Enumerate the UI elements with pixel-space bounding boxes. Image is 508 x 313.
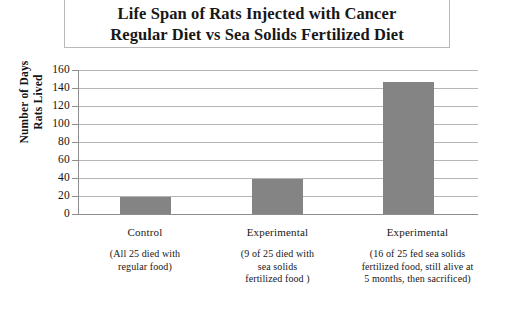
x-category-0-sub-2: regular food) — [70, 261, 220, 274]
y-tick-label-120: 120 — [44, 99, 70, 111]
x-category-2: Experimental (16 of 25 fed sea solids fe… — [330, 226, 505, 286]
y-tick-label-60: 60 — [44, 153, 70, 165]
x-category-1: Experimental (9 of 25 died with sea soli… — [205, 226, 350, 286]
y-tick-label-160: 160 — [44, 63, 70, 75]
x-category-2-sub-3: 5 months, then sacrificed) — [330, 273, 505, 286]
x-category-1-sub-3: fertilized food ) — [205, 273, 350, 286]
y-axis-title-line-1: Number of Days — [18, 60, 30, 143]
y-axis-title: Number of Days Rats Lived — [17, 33, 45, 171]
y-tick-label-140: 140 — [44, 81, 70, 93]
x-category-1-sub-1: (9 of 25 died with — [205, 248, 350, 261]
bar-control — [120, 197, 171, 214]
plot-area — [78, 70, 478, 214]
y-tick-label-40: 40 — [44, 171, 70, 183]
x-category-0-sub-1: (All 25 died with — [70, 248, 220, 261]
y-tick-label-20: 20 — [44, 189, 70, 201]
y-tick-label-100: 100 — [44, 117, 70, 129]
x-category-1-name: Experimental — [205, 226, 350, 239]
y-tick-label-80: 80 — [44, 135, 70, 147]
x-category-1-sub-2: sea solids — [205, 261, 350, 274]
x-category-2-sub-1: (16 of 25 fed sea solids — [330, 248, 505, 261]
x-category-2-sub-2: fertilized food, still alive at — [330, 261, 505, 274]
bar-chart: Number of Days Rats Lived 02040608010012… — [0, 0, 508, 313]
x-category-2-name: Experimental — [330, 226, 505, 239]
bar-experimental-2 — [383, 82, 434, 214]
x-category-0: Control (All 25 died with regular food) — [70, 226, 220, 273]
y-tick-label-0: 0 — [44, 207, 70, 219]
bar-experimental-1 — [252, 179, 303, 214]
x-category-0-name: Control — [70, 226, 220, 239]
x-axis-line — [78, 214, 478, 215]
y-axis-title-line-2: Rats Lived — [32, 74, 44, 129]
